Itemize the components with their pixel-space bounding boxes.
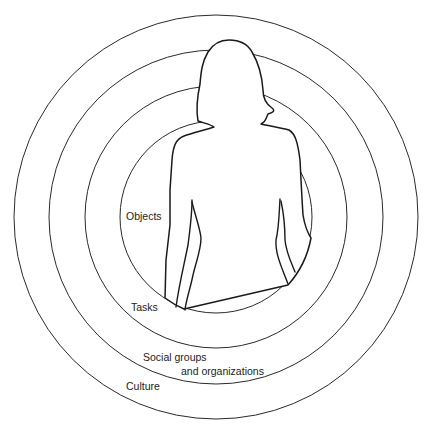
label-and-organizations: and organizations xyxy=(181,366,264,377)
diagram-canvas: Objects Tasks Social groups and organiza… xyxy=(0,0,429,432)
label-culture: Culture xyxy=(126,381,160,392)
label-tasks: Tasks xyxy=(131,302,158,313)
label-objects: Objects xyxy=(126,211,162,222)
person-silhouette-icon xyxy=(165,40,311,309)
label-social-groups: Social groups xyxy=(143,352,207,363)
